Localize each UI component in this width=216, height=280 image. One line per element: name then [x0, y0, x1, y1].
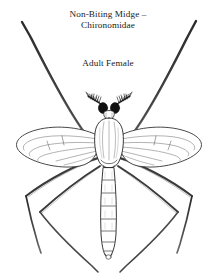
plumose-antenna-left	[86, 92, 101, 103]
leg-middle-right	[120, 158, 192, 253]
chironomid-midge-dorsal-illustration	[0, 0, 216, 280]
right-wing	[119, 127, 202, 167]
plumose-antenna-right	[117, 92, 132, 103]
abdomen	[101, 168, 117, 259]
leg-middle-left	[26, 158, 98, 253]
left-wing	[17, 127, 100, 167]
head-and-antennae	[86, 92, 132, 119]
figure-page: Non-Biting Midge – Chironomidae Adult Fe…	[0, 0, 216, 280]
leg-hind-right	[118, 166, 178, 272]
thorax	[95, 118, 124, 168]
leg-hind-left	[40, 166, 100, 272]
